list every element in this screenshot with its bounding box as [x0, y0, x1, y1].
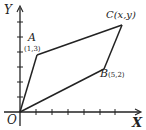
point-b-label: B: [99, 67, 108, 80]
x-axis-label: X: [131, 115, 143, 130]
origin-label: O: [7, 113, 17, 127]
side-oa: [20, 55, 37, 112]
y-axis: [17, 6, 23, 126]
point-b-coords: (5,2): [108, 71, 125, 79]
point-c-label: C(x,y): [106, 9, 136, 20]
y-axis-label: Y: [4, 3, 13, 17]
side-cb: [104, 25, 122, 69]
side-ac: [37, 25, 122, 55]
side-bo: [20, 69, 104, 112]
diagram-canvas: Y X O A (1,3) B (5,2) C(x,y): [0, 0, 146, 130]
point-a-coords: (1,3): [24, 45, 41, 53]
parallelogram-diagram: Y X O A (1,3) B (5,2) C(x,y): [0, 0, 146, 130]
point-a-label: A: [27, 31, 36, 44]
